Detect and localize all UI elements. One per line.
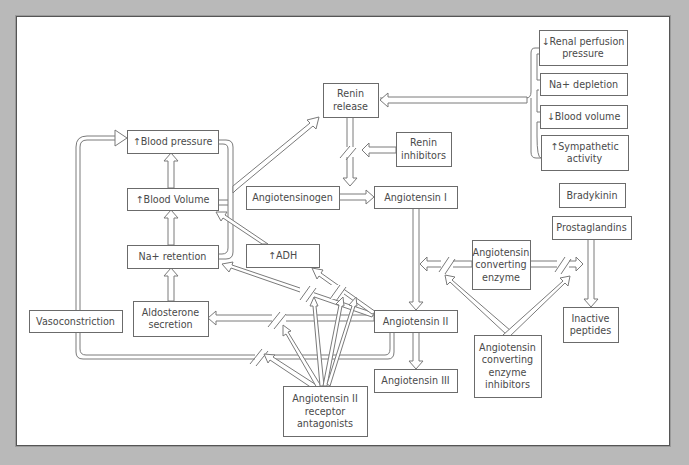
node-label: Na+ depletion [549,79,618,90]
angiotensinogen-to-ang1-arrow [339,190,374,204]
feedback-loop-inner [218,144,228,254]
node-label: ↓Renal perfusion [542,36,625,47]
renin-inhibitors-arrow [362,143,396,157]
node-angiotensin-1: Angiotensin I [375,187,458,209]
node-sympathetic: ↑Sympatheticactivity [542,136,629,171]
node-label: ↑Sympathetic [550,141,619,152]
node-angiotensin-3: Angiotensin III [375,370,458,393]
node-label: Angiotensin [473,247,530,258]
node-label: antagonists [297,418,353,429]
node-renin-inhibitors: Renininhibitors [397,133,452,167]
node-label: Angiotensin II [383,316,448,327]
node-label: Renin [410,137,437,148]
node-label: activity [567,153,603,164]
node-label: converting [482,354,533,365]
node-prostaglandins: Prostaglandins [553,217,632,240]
node-label: Prostaglandins [556,222,626,233]
aldo-to-na-arrow [164,268,178,301]
node-label: Inactive [571,313,609,324]
node-renal-perfusion: ↓Renal perfusionpressure [540,31,628,66]
node-adh: ↑ADH [247,245,320,268]
node-label: Angiotensin II [292,393,357,404]
node-label: pressure [562,48,604,59]
node-label: Aldosterone [142,307,200,318]
na-to-bv-arrow [164,210,178,245]
stimuli-to-renin-arrow [380,93,527,107]
node-label: ↑ADH [268,250,297,261]
node-label: inhibitors [485,379,530,390]
node-ace: Angiotensinconvertingenzyme [473,241,531,290]
node-ace-inhibitors: Angiotensinconvertingenzymeinhibitors [475,336,542,398]
node-label: enzyme [489,367,527,378]
ang2-to-ang3-arrow [409,332,423,369]
node-label: ↑Blood pressure [133,136,213,147]
ang1-to-ang2-arrow [409,208,423,310]
node-label: Angiotensin III [381,375,449,386]
node-label: inhibitors [401,150,446,161]
node-label: release [333,101,368,112]
node-label: secretion [148,319,192,330]
node-label: Angiotensinogen [252,192,333,203]
node-label: Vasoconstriction [36,316,115,327]
node-label: Renin [337,88,364,99]
node-angiotensin-2: Angiotensin II [375,311,458,333]
adh-to-bv-arrow [216,212,268,244]
node-label: converting [475,259,526,270]
node-vasoconstriction: Vasoconstriction [30,311,123,333]
node-label: enzyme [482,272,520,283]
bv-to-bp-arrow [164,153,178,188]
node-at2-antagonists: Angiotensin IIreceptorantagonists [284,387,368,437]
node-na-depletion: Na+ depletion [541,74,628,96]
node-renin-release: Reninrelease [324,84,379,118]
node-label: receptor [305,406,346,417]
vaso-to-bp-arrow [115,130,127,146]
node-inactive-peptides: Inactivepeptides [564,308,619,343]
node-label: ↓Blood volume [547,111,621,122]
node-label: Angiotensin I [384,192,447,203]
node-angiotensinogen: Angiotensinogen [247,187,340,210]
node-bradykinin: Bradykinin [560,184,626,208]
prostaglandins-to-inactive-arrow [584,239,598,307]
loop-to-renin-arrow [233,117,319,193]
node-label: Bradykinin [566,190,617,201]
renin-angiotensin-diagram: ↓Renal perfusionpressureNa+ depletion↓Bl… [0,0,689,465]
node-label: ↑Blood Volume [136,194,210,205]
node-low-blood-volume: ↓Blood volume [541,106,628,129]
node-blood-pressure: ↑Blood pressure [128,131,219,154]
node-label: Na+ retention [139,251,207,262]
node-aldosterone: Aldosteronesecretion [134,302,209,337]
node-label: Angiotensin [479,342,536,353]
node-blood-volume-up: ↑Blood Volume [128,189,219,211]
node-na-retention: Na+ retention [128,246,219,269]
node-label: peptides [570,325,612,336]
